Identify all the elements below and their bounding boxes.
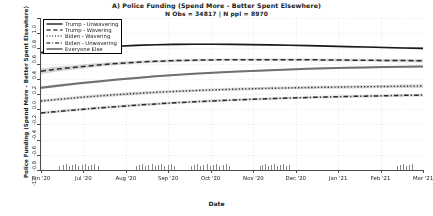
legend-item: Everyone Else xyxy=(46,46,118,52)
y-tick xyxy=(37,140,40,141)
rug-tick xyxy=(289,165,290,170)
legend-label: Everyone Else xyxy=(65,46,102,52)
legend-item: Trump - Unwavering xyxy=(46,21,118,27)
rug-tick xyxy=(82,165,83,170)
x-tick-label: Feb '21 xyxy=(371,175,391,181)
y-tick xyxy=(37,94,40,95)
x-tick-label: Oct '20 xyxy=(201,175,220,181)
rug-tick xyxy=(216,164,217,170)
legend-item: Biden - Unwavering xyxy=(46,40,118,46)
x-tick xyxy=(253,170,254,173)
rug-tick xyxy=(207,164,208,170)
x-tick-label: Aug '20 xyxy=(116,175,137,181)
legend-item: Biden - Wavering xyxy=(46,33,118,39)
rug-tick xyxy=(409,165,410,170)
rug-tick xyxy=(262,165,263,170)
rug-tick xyxy=(78,166,79,171)
rug-tick xyxy=(271,165,272,170)
rug-tick xyxy=(142,164,143,170)
chart-title-block: A) Police Funding (Spend More - Better S… xyxy=(0,2,433,18)
rug-tick xyxy=(145,166,146,171)
rug-tick xyxy=(400,165,401,170)
x-axis-label: Date xyxy=(0,200,433,207)
rug-tick xyxy=(213,165,214,170)
rug-tick xyxy=(63,165,64,170)
rug-tick xyxy=(98,166,99,171)
x-tick xyxy=(126,170,127,173)
y-tick xyxy=(37,155,40,156)
legend-key-solid xyxy=(46,21,63,27)
chart-figure: A) Police Funding (Spend More - Better S… xyxy=(0,0,433,216)
rug-tick xyxy=(174,166,175,171)
rug-tick xyxy=(194,165,195,170)
x-tick xyxy=(168,170,169,173)
x-tick-label: Jun '20 xyxy=(32,175,50,181)
rug-tick xyxy=(152,164,153,170)
rug-tick xyxy=(88,166,89,171)
rug-tick xyxy=(265,164,266,170)
y-axis-line xyxy=(40,18,41,170)
legend-key-solid-thick-gray xyxy=(46,46,63,52)
rug-tick xyxy=(277,166,278,171)
x-tick-label: Jan '21 xyxy=(329,175,347,181)
rug-tick xyxy=(260,166,261,171)
rug-tick xyxy=(412,164,413,170)
x-tick-label: Mar '21 xyxy=(413,175,433,181)
y-tick xyxy=(37,124,40,125)
legend-item: Trump - Wavering xyxy=(46,27,118,33)
rug-tick xyxy=(91,165,92,170)
legend-label: Biden - Unwavering xyxy=(65,40,117,46)
rug-tick xyxy=(223,165,224,170)
x-tick xyxy=(381,170,382,173)
y-tick xyxy=(37,48,40,49)
x-tick xyxy=(423,170,424,173)
y-tick xyxy=(37,170,40,171)
rug-tick xyxy=(274,164,275,170)
rug-tick xyxy=(403,164,404,170)
rug-tick xyxy=(139,165,140,170)
legend-key-dotted xyxy=(46,33,63,39)
x-tick xyxy=(338,170,339,173)
legend-label: Biden - Wavering xyxy=(65,33,110,39)
x-tick-label: Nov '20 xyxy=(243,175,264,181)
rug-tick xyxy=(283,164,284,170)
rug-tick xyxy=(148,165,149,170)
rug-tick xyxy=(191,166,192,171)
rug-tick xyxy=(94,164,95,170)
x-tick-label: Jul '20 xyxy=(75,175,92,181)
y-tick-label: -1.0 xyxy=(31,170,37,192)
rug-tick xyxy=(406,166,407,171)
legend-key-dashdot xyxy=(46,40,63,46)
y-tick xyxy=(37,18,40,19)
y-axis-label: Police Funding (Spend More - Better Spen… xyxy=(23,18,29,178)
legend: Trump - UnwaveringTrump - WaveringBiden … xyxy=(43,19,122,54)
rug-tick xyxy=(59,166,60,171)
rug-tick xyxy=(200,166,201,171)
rug-tick xyxy=(210,166,211,171)
legend-label: Trump - Unwavering xyxy=(65,21,118,27)
rug-tick xyxy=(286,166,287,171)
y-tick xyxy=(37,79,40,80)
rug-tick xyxy=(164,166,165,171)
rug-tick xyxy=(280,165,281,170)
rug-tick xyxy=(85,164,86,170)
rug-tick xyxy=(69,166,70,171)
x-tick-label: Dec '20 xyxy=(286,175,307,181)
rug-plot xyxy=(41,163,423,170)
rug-tick xyxy=(397,166,398,171)
chart-subtitle: N Obs = 34817 | N ppl = 8970 xyxy=(0,10,433,18)
rug-tick xyxy=(268,166,269,171)
rug-tick xyxy=(136,166,137,171)
rug-tick xyxy=(229,166,230,171)
rug-tick xyxy=(197,164,198,170)
rug-tick xyxy=(226,164,227,170)
rug-tick xyxy=(155,166,156,171)
rug-tick xyxy=(161,164,162,170)
rug-tick xyxy=(168,165,169,170)
rug-tick xyxy=(66,164,67,170)
x-tick xyxy=(41,170,42,173)
rug-tick xyxy=(219,166,220,171)
y-tick xyxy=(37,64,40,65)
y-tick xyxy=(37,33,40,34)
rug-tick xyxy=(72,165,73,170)
